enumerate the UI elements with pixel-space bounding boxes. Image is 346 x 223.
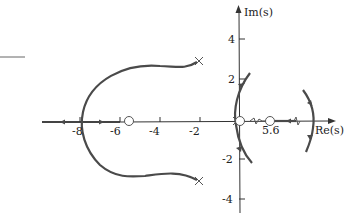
x-tick-label: -4 — [149, 125, 160, 138]
y-tick-label: 2 — [228, 73, 235, 86]
zero-circle-icon — [236, 117, 245, 126]
pole-x-icon — [195, 177, 203, 185]
x-axis-label: Re(s) — [315, 124, 344, 137]
y-tick-label: 4 — [228, 33, 235, 46]
x-tick-label: -2 — [189, 125, 200, 138]
zero-circle-icon — [125, 117, 134, 126]
direction-arrows — [60, 83, 313, 152]
imag-axis — [236, 5, 246, 213]
x-extra-label: 5.6 — [262, 124, 280, 137]
y-tick-label: -2 — [222, 153, 233, 166]
pole-x-icon — [195, 57, 203, 65]
imag-axis-arrow-icon — [236, 5, 242, 13]
y-axis-label: Im(s) — [244, 6, 273, 19]
root-locus-diagram: -8 -6 -4 -2 5.6 4 2 -2 -4 Im(s) Re(s) — [0, 0, 346, 223]
x-tick-label: -8 — [72, 125, 83, 138]
y-tick-label: -4 — [222, 193, 233, 206]
x-tick-label: -6 — [110, 125, 121, 138]
